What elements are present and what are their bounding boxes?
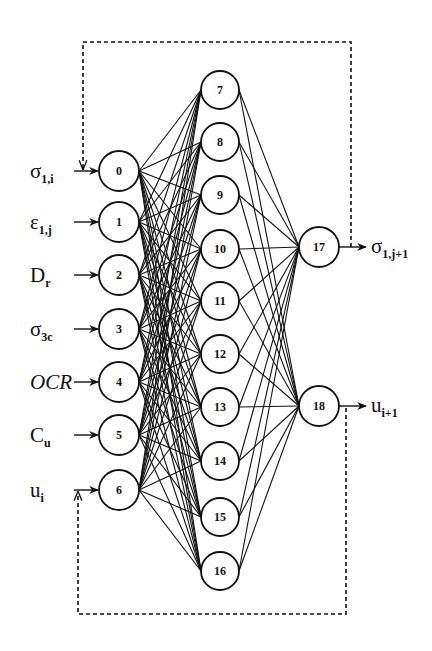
hidden-node-7: 7 [201,71,239,109]
input-label-4: OCR [30,370,72,394]
output-node-18: 18 [299,386,339,426]
input-node-1: 1 [99,202,139,242]
hidden-node-10: 10 [201,230,239,268]
input-label-3: σ3c [30,317,53,344]
node-id: 3 [116,322,122,336]
edge-16-17 [239,247,299,571]
node-id: 7 [217,83,223,97]
hidden-node-13: 13 [201,388,239,426]
input-label-0: σ1,i [30,159,54,186]
node-id: 13 [214,400,226,414]
hidden-node-14: 14 [201,442,239,480]
edge-4-7 [139,90,201,382]
hidden-node-16: 16 [201,552,239,590]
input-node-2: 2 [99,255,139,295]
input-node-4: 4 [99,362,139,402]
input-node-5: 5 [99,415,139,455]
node-id: 15 [214,510,226,524]
node-id: 11 [214,294,225,308]
neural-network-diagram: 0123456789101112131415161718 σ1,iε1,jDrσ… [0,0,432,651]
hidden-node-9: 9 [201,176,239,214]
node-id: 10 [214,242,226,256]
edge-14-18 [239,406,299,461]
input-node-3: 3 [99,309,139,349]
node-id: 4 [116,375,122,389]
edge-12-17 [239,247,299,354]
node-id: 6 [116,483,122,497]
input-node-6: 6 [99,470,139,510]
node-id: 8 [217,135,223,149]
node-id: 0 [116,164,122,178]
edge-6-14 [139,461,201,490]
edge-7-17 [239,90,299,247]
node-id: 2 [116,268,122,282]
hidden-node-8: 8 [201,123,239,161]
input-node-0: 0 [99,151,139,191]
output-label-18: ui+1 [371,393,398,420]
hidden-node-11: 11 [201,282,239,320]
edge-14-17 [239,247,299,461]
edge-9-17 [239,195,299,247]
edge-6-15 [139,490,201,517]
edge-15-18 [239,406,299,517]
edge-8-17 [239,142,299,247]
input-label-2: Dr [30,263,51,290]
output-label-17: σ1,j+1 [371,234,408,261]
node-id: 5 [116,428,122,442]
node-id: 18 [313,399,325,413]
input-label-5: Cu [30,423,51,450]
edge-1-7 [139,90,201,222]
node-id: 1 [116,215,122,229]
input-label-1: ε1,j [30,210,52,237]
node-id: 14 [214,454,226,468]
node-id: 16 [214,564,226,578]
output-node-17: 17 [299,227,339,267]
hidden-node-15: 15 [201,498,239,536]
edge-0-7 [139,90,201,171]
node-id: 9 [217,188,223,202]
edge-6-8 [139,142,201,490]
hidden-node-12: 12 [201,335,239,373]
node-id: 12 [214,347,226,361]
nodes: 0123456789101112131415161718 [99,71,339,590]
node-id: 17 [313,240,325,254]
input-label-6: ui [30,478,45,505]
